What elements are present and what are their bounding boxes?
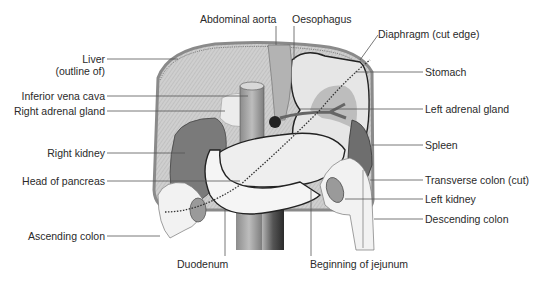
label-liver-line1: Liver	[0, 53, 105, 65]
label-left-kidney: Left kidney	[425, 193, 476, 205]
label-oesophagus: Oesophagus	[292, 13, 352, 25]
label-beginning-of-jejunum: Beginning of jejunum	[310, 258, 408, 270]
label-transverse-colon: Transverse colon (cut)	[425, 174, 529, 186]
label-right-kidney: Right kidney	[0, 147, 105, 159]
label-left-adrenal-gland: Left adrenal gland	[425, 103, 509, 115]
label-right-adrenal-gland: Right adrenal gland	[0, 105, 105, 117]
label-spleen: Spleen	[425, 139, 458, 151]
label-ascending-colon: Ascending colon	[0, 230, 105, 242]
label-diaphragm: Diaphragm (cut edge)	[378, 28, 480, 40]
label-stomach: Stomach	[425, 66, 466, 78]
label-inferior-vena-cava: Inferior vena cava	[0, 90, 105, 102]
label-head-of-pancreas: Head of pancreas	[0, 175, 105, 187]
label-abdominal-aorta: Abdominal aorta	[200, 13, 276, 25]
label-liver: Liver (outline of)	[0, 53, 105, 77]
label-liver-line2: (outline of)	[0, 65, 105, 77]
label-duodenum: Duodenum	[177, 258, 228, 270]
label-descending-colon: Descending colon	[425, 213, 508, 225]
